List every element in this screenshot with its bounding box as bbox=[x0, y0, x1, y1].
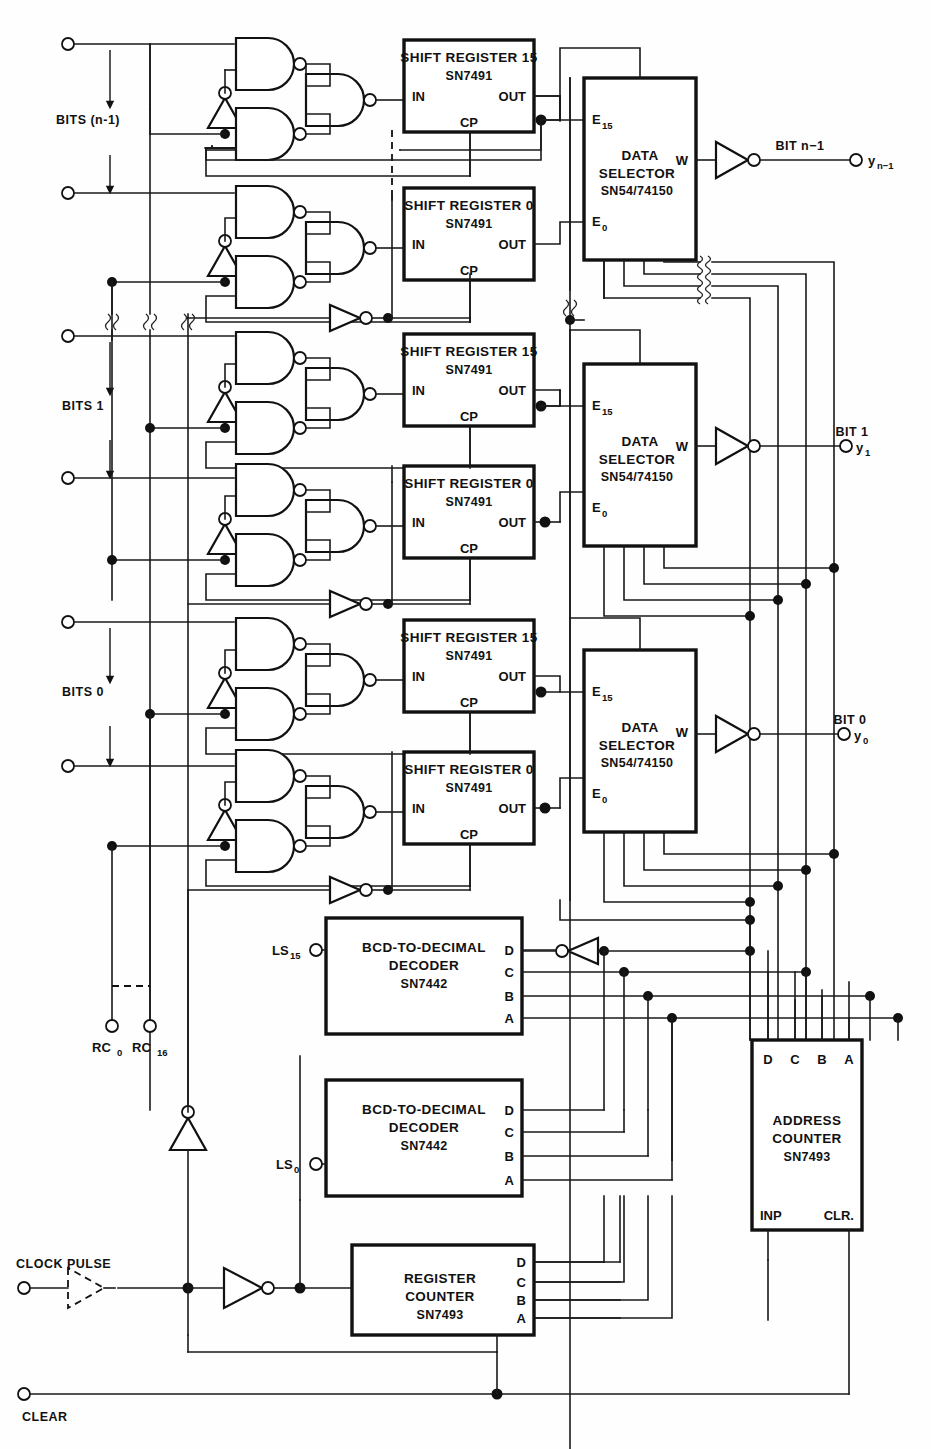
sr0-pin-cp: CP bbox=[460, 115, 478, 130]
input-terminal-bits1-b[interactable] bbox=[62, 472, 74, 484]
sr2-part: SN7491 bbox=[446, 363, 493, 377]
ds0-out-label: BIT n−1 bbox=[776, 139, 825, 153]
terminal-rc16[interactable] bbox=[144, 1020, 156, 1032]
ds1-part: SN54/74150 bbox=[601, 470, 674, 484]
sr0-pin-in: IN bbox=[412, 89, 425, 104]
label-rc16-sub: 16 bbox=[157, 1047, 168, 1058]
dec1-line2: DECODER bbox=[389, 1120, 459, 1135]
ac-pin-inp: INP bbox=[760, 1208, 782, 1223]
ds1-out-name: y bbox=[856, 440, 864, 455]
ac-pin-b: B bbox=[817, 1052, 826, 1067]
ds0-out-name: y bbox=[868, 153, 876, 168]
ds0-pin-e0: E bbox=[592, 214, 601, 229]
sr1-title: SHIFT REGISTER 0 bbox=[404, 198, 533, 213]
label-rc0: RC bbox=[92, 1040, 111, 1055]
dec0-pin-b: B bbox=[505, 989, 514, 1004]
label-rc16: RC bbox=[132, 1040, 151, 1055]
sr2-pin-out: OUT bbox=[499, 383, 527, 398]
sr5-title: SHIFT REGISTER 0 bbox=[404, 762, 533, 777]
input-terminal-bits-n1-b[interactable] bbox=[62, 187, 74, 199]
label-bits-0: BITS 0 bbox=[62, 685, 104, 699]
ac-pin-d: D bbox=[763, 1052, 772, 1067]
output-terminal-bit-n1[interactable] bbox=[850, 154, 862, 166]
ds0-line1: DATA bbox=[621, 148, 658, 163]
sr3-pin-out: OUT bbox=[499, 515, 527, 530]
dec0-pin-d: D bbox=[505, 943, 514, 958]
ds2-line1: DATA bbox=[621, 720, 658, 735]
ac-line2: COUNTER bbox=[772, 1131, 842, 1146]
rc-line2: COUNTER bbox=[405, 1289, 475, 1304]
ds2-line2: SELECTOR bbox=[599, 738, 675, 753]
input-terminal-bits0-b[interactable] bbox=[62, 760, 74, 772]
ac-part: SN7493 bbox=[784, 1150, 831, 1164]
sr0-title: SHIFT REGISTER 15 bbox=[400, 50, 537, 65]
dec1-pin-c: C bbox=[505, 1125, 515, 1140]
ds2-pin-w: W bbox=[676, 725, 689, 740]
sr2-title: SHIFT REGISTER 15 bbox=[400, 344, 537, 359]
ds2-pin-e0-sub: 0 bbox=[602, 794, 607, 805]
sr5-part: SN7491 bbox=[446, 781, 493, 795]
label-rc0-sub: 0 bbox=[117, 1047, 122, 1058]
ds1-pin-e15: E bbox=[592, 398, 601, 413]
input-terminal-bits0-a[interactable] bbox=[62, 616, 74, 628]
ds0-out-sub: n−1 bbox=[877, 160, 894, 171]
ds2-out-sub: 0 bbox=[863, 735, 868, 746]
ds1-line1: DATA bbox=[621, 434, 658, 449]
schematic-page: BITS (n-1) BITS 1 BITS 0 SHIFT REGISTER … bbox=[0, 0, 931, 1449]
dec0-input-label: LS bbox=[272, 943, 289, 958]
ds1-pin-e0: E bbox=[592, 500, 601, 515]
sr4-pin-cp: CP bbox=[460, 695, 478, 710]
input-terminal-bits-n1-a[interactable] bbox=[62, 38, 74, 50]
label-clock-pulse: CLOCK PULSE bbox=[16, 1257, 111, 1271]
ds2-pin-e15: E bbox=[592, 684, 601, 699]
output-terminal-bit-0[interactable] bbox=[838, 728, 850, 740]
output-terminal-bit-1[interactable] bbox=[840, 440, 852, 452]
ds0-part: SN54/74150 bbox=[601, 184, 674, 198]
dec0-pin-c: C bbox=[505, 965, 515, 980]
sr1-pin-in: IN bbox=[412, 237, 425, 252]
sr3-pin-cp: CP bbox=[460, 541, 478, 556]
sr5-pin-cp: CP bbox=[460, 827, 478, 842]
sr0-pin-out: OUT bbox=[499, 89, 527, 104]
dec1-input-sub: 0 bbox=[294, 1164, 299, 1175]
rc-pin-d: D bbox=[517, 1255, 526, 1270]
input-terminal-ls15[interactable] bbox=[310, 944, 322, 956]
sr4-pin-out: OUT bbox=[499, 669, 527, 684]
dec1-pin-a: A bbox=[505, 1173, 515, 1188]
ds2-pin-e15-sub: 15 bbox=[602, 692, 613, 703]
input-terminal-clear[interactable] bbox=[18, 1388, 30, 1400]
dec0-line1: BCD-TO-DECIMAL bbox=[362, 940, 486, 955]
sr3-part: SN7491 bbox=[446, 495, 493, 509]
terminal-rc0[interactable] bbox=[106, 1020, 118, 1032]
input-terminal-clock[interactable] bbox=[18, 1282, 30, 1294]
input-terminal-bits1-a[interactable] bbox=[62, 330, 74, 342]
ac-pin-a: A bbox=[844, 1052, 854, 1067]
sr2-pin-cp: CP bbox=[460, 409, 478, 424]
rc-pin-b: B bbox=[517, 1293, 526, 1308]
ds2-pin-e0: E bbox=[592, 786, 601, 801]
ds1-pin-e0-sub: 0 bbox=[602, 508, 607, 519]
ds0-line2: SELECTOR bbox=[599, 166, 675, 181]
label-bits-n1: BITS (n-1) bbox=[56, 113, 120, 127]
sr0-part: SN7491 bbox=[446, 69, 493, 83]
dec1-pin-d: D bbox=[505, 1103, 514, 1118]
schematic-canvas: BITS (n-1) BITS 1 BITS 0 SHIFT REGISTER … bbox=[0, 0, 931, 1449]
input-terminal-ls0[interactable] bbox=[310, 1158, 322, 1170]
rc-pin-a: A bbox=[517, 1311, 527, 1326]
sr1-pin-out: OUT bbox=[499, 237, 527, 252]
sr4-title: SHIFT REGISTER 15 bbox=[400, 630, 537, 645]
sr2-pin-in: IN bbox=[412, 383, 425, 398]
sr4-pin-in: IN bbox=[412, 669, 425, 684]
dec0-line2: DECODER bbox=[389, 958, 459, 973]
ds2-part: SN54/74150 bbox=[601, 756, 674, 770]
sr5-pin-out: OUT bbox=[499, 801, 527, 816]
rc-pin-c: C bbox=[517, 1275, 527, 1290]
sr1-part: SN7491 bbox=[446, 217, 493, 231]
rc-line1: REGISTER bbox=[404, 1271, 476, 1286]
sr5-pin-in: IN bbox=[412, 801, 425, 816]
rc-part: SN7493 bbox=[417, 1308, 464, 1322]
dec0-input-sub: 15 bbox=[290, 950, 301, 961]
dec1-part: SN7442 bbox=[401, 1139, 448, 1153]
label-bits-1: BITS 1 bbox=[62, 399, 104, 413]
ac-pin-c: C bbox=[790, 1052, 800, 1067]
